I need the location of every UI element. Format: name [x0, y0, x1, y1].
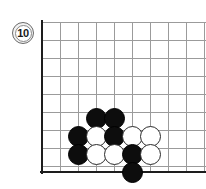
move-number-badge-inner: 10: [15, 25, 32, 42]
gridline-vertical-8: [186, 22, 187, 172]
gridline-horizontal-2: [42, 58, 206, 59]
gridline-horizontal-1: [42, 40, 206, 41]
gridline-horizontal-5: [42, 112, 206, 113]
stone-white[interactable]: [140, 144, 161, 165]
go-diagram-screenshot: 10: [0, 0, 206, 189]
gridline-vertical-7: [168, 22, 169, 172]
gridline-horizontal-0: [42, 22, 206, 23]
board-edge-left: [41, 20, 44, 174]
gridline-horizontal-4: [42, 94, 206, 95]
gridline-vertical-9: [204, 22, 205, 172]
stone-black[interactable]: [122, 162, 143, 183]
move-number-label: 10: [17, 28, 28, 39]
gridline-horizontal-3: [42, 76, 206, 77]
gridline-vertical-1: [60, 22, 61, 172]
